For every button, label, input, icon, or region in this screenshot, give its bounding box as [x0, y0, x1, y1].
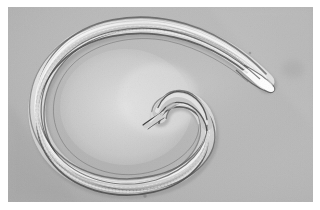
screenshot-viewport — [0, 0, 320, 210]
nematode-illustration — [8, 7, 313, 202]
photomicrograph-image — [8, 7, 313, 202]
film-grain-overlay — [8, 7, 313, 202]
